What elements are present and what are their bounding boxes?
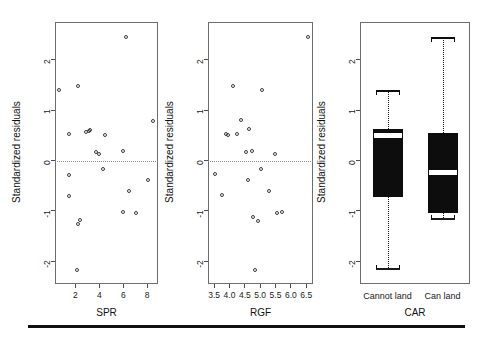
data-point <box>101 167 105 171</box>
y-tick-label: -2 <box>348 261 357 275</box>
x-tick-label: 6.5 <box>292 291 320 300</box>
data-point <box>213 172 217 176</box>
whisker-upper <box>388 90 389 129</box>
y-tick-label: -1 <box>348 210 357 224</box>
data-point <box>97 152 101 156</box>
x-tick <box>244 284 245 288</box>
plot-frame-2 <box>208 22 313 284</box>
data-point <box>57 88 61 92</box>
median-line <box>374 133 402 138</box>
y-axis-title: Standardized residuals <box>317 92 327 212</box>
data-point <box>127 189 131 193</box>
x-tick <box>229 284 230 288</box>
y-tick-label: 0 <box>196 160 205 174</box>
x-tick <box>275 284 276 288</box>
y-axis-title: Standardized residuals <box>12 92 22 212</box>
zero-reference-line <box>55 161 158 162</box>
y-tick-label: 1 <box>43 109 52 123</box>
y-tick-label: -1 <box>196 210 205 224</box>
data-point <box>247 127 251 131</box>
median-line <box>429 170 457 175</box>
y-tick-label: 1 <box>348 109 357 123</box>
whisker-cap-upper <box>376 90 400 95</box>
category-label: Can land <box>403 292 483 301</box>
box-1 <box>373 129 403 197</box>
data-point <box>246 178 250 182</box>
y-tick-label: 2 <box>196 59 205 73</box>
data-point <box>275 211 279 215</box>
y-tick-label: 2 <box>43 59 52 73</box>
x-tick <box>306 284 307 288</box>
x-tick <box>99 284 100 288</box>
zero-reference-line <box>208 161 313 162</box>
y-tick-label: -2 <box>196 261 205 275</box>
data-point <box>67 173 71 177</box>
x-axis-title: SPR <box>47 308 167 318</box>
x-axis-title: RGF <box>201 308 321 318</box>
plot-frame-1 <box>55 22 158 284</box>
y-axis-title: Standardized residuals <box>165 92 175 212</box>
data-point <box>306 35 310 39</box>
x-tick <box>214 284 215 288</box>
data-point <box>124 35 128 39</box>
whisker-upper <box>443 37 444 133</box>
data-point <box>256 219 260 223</box>
data-point <box>76 222 80 226</box>
y-tick-label: 1 <box>196 109 205 123</box>
data-point <box>273 152 277 156</box>
data-point <box>260 88 264 92</box>
x-tick <box>123 284 124 288</box>
whisker-cap-lower <box>431 215 455 220</box>
data-point <box>76 84 80 88</box>
figure-canvas: -2-1012Standardized residuals2468SPR-2-1… <box>0 0 483 338</box>
y-tick-label: 0 <box>348 160 357 174</box>
x-tick-label: 8 <box>133 291 161 300</box>
y-tick-label: 2 <box>348 59 357 73</box>
x-tick <box>290 284 291 288</box>
data-point <box>235 132 239 136</box>
y-tick-label: -1 <box>43 210 52 224</box>
whisker-cap-lower <box>376 265 400 270</box>
y-tick-label: -2 <box>43 261 52 275</box>
bottom-divider <box>28 325 465 328</box>
x-tick <box>147 284 148 288</box>
x-tick <box>260 284 261 288</box>
x-axis-title: CAR <box>355 308 475 318</box>
whisker-cap-upper <box>431 37 455 42</box>
x-tick <box>75 284 76 288</box>
whisker-lower <box>388 197 389 271</box>
data-point <box>259 167 263 171</box>
y-tick-label: 0 <box>43 160 52 174</box>
